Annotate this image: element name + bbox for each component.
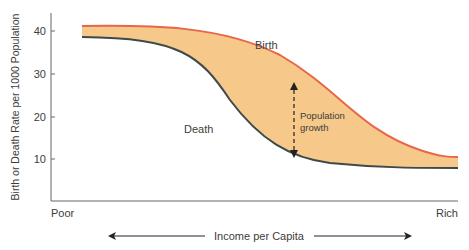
growth-label-line2: growth: [300, 122, 329, 133]
growth-label-line1: Population: [300, 110, 345, 121]
birth-label: Birth: [255, 39, 278, 51]
y-ticks: [51, 31, 55, 159]
y-axis-label: Birth or Death Rate per 1000 Population: [9, 13, 21, 200]
y-tick-20: 20: [34, 111, 46, 123]
x-label-rich: Rich: [436, 207, 458, 219]
y-tick-10: 10: [34, 153, 46, 165]
birth-death-chart: 40 30 20 10 Birth or Death Rate per 1000…: [0, 0, 469, 250]
x-axis-label: Income per Capita: [214, 230, 305, 242]
death-label: Death: [184, 123, 213, 135]
y-tick-30: 30: [34, 68, 46, 80]
x-label-poor: Poor: [51, 207, 75, 219]
y-tick-40: 40: [34, 25, 46, 37]
